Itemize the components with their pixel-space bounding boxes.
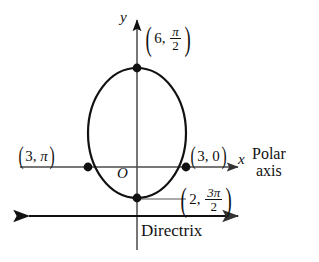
point-label-left: ( 3 , π ) xyxy=(17,146,56,166)
open-paren: ( xyxy=(181,187,187,213)
point-label-top: ( 6 , π 2 ) xyxy=(143,25,193,53)
directrix-label: Directrix xyxy=(141,222,202,239)
close-paren: ) xyxy=(49,146,54,166)
x-axis-label: x xyxy=(238,152,245,167)
polar-axis-label: Polar axis xyxy=(252,146,286,180)
point-top-angle-fraction: π 2 xyxy=(170,25,181,53)
point-left xyxy=(84,163,93,172)
point-right-angle: 0 xyxy=(212,149,220,164)
point-bottom-radius: 2 xyxy=(189,192,197,207)
y-axis-label: y xyxy=(120,10,127,25)
comma: , xyxy=(197,192,205,207)
point-label-bottom: ( 2 , 3π 2 ) xyxy=(178,186,235,214)
polar-conic-figure: ( 6 , π 2 ) ( 3 , π ) ( 3 , 0 ) xyxy=(0,0,319,262)
open-paren: ( xyxy=(191,146,196,166)
point-top-radius: 6 xyxy=(154,31,162,46)
close-paren: ) xyxy=(226,187,232,213)
fraction-numerator: 3π xyxy=(205,186,222,199)
polar-axis-label-line2: axis xyxy=(252,163,286,180)
point-label-right: ( 3 , 0 ) xyxy=(189,146,228,166)
point-right-radius: 3 xyxy=(197,149,205,164)
fraction-denominator: 2 xyxy=(209,200,220,213)
point-left-radius: 3 xyxy=(25,149,33,164)
comma: , xyxy=(33,149,41,164)
comma: , xyxy=(162,31,170,46)
origin-label: O xyxy=(117,166,128,181)
point-bottom-angle-fraction: 3π 2 xyxy=(205,186,222,214)
point-top xyxy=(133,64,142,73)
open-paren: ( xyxy=(19,146,24,166)
point-left-angle: π xyxy=(40,149,48,164)
polar-axis-label-line1: Polar xyxy=(252,146,286,163)
open-paren: ( xyxy=(146,26,152,52)
fraction-denominator: 2 xyxy=(170,39,181,52)
comma: , xyxy=(205,149,213,164)
close-paren: ) xyxy=(221,146,226,166)
point-bottom xyxy=(133,194,142,203)
fraction-numerator: π xyxy=(170,25,181,38)
close-paren: ) xyxy=(184,26,190,52)
